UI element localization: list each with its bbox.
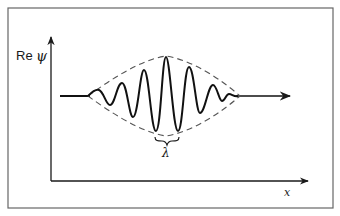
figure-frame [8, 8, 333, 208]
y-axis-label-symbol: ψ [36, 48, 48, 64]
x-axis-label: x [284, 186, 291, 199]
envelope-lower [88, 96, 240, 136]
wave-curve [88, 57, 238, 131]
wavelength-label: λ [161, 146, 170, 160]
wave-packet-diagram: Re ψ x λ [0, 0, 340, 216]
y-axis-label-prefix: Re [16, 48, 33, 63]
wavelength-brace [155, 137, 179, 145]
